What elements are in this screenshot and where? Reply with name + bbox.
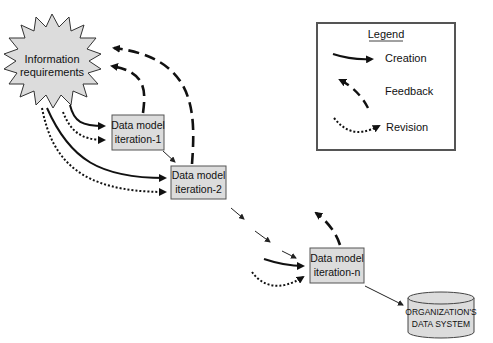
legend-revision-label: Revision [386,121,428,133]
iteration-n-node: Data model iteration-n [310,248,364,283]
creation-arrow-to-itern [264,259,303,266]
iteration-n-line1: Data model [310,252,364,264]
creation-arrow-to-iter1 [70,105,104,126]
iter2-progress-arrow-1 [231,208,244,219]
feedback-arrow-iter1-to-info [112,66,144,113]
iter2-progress-arrow-2 [255,231,270,242]
data-system-line1: ORGANIZATION'S [405,307,477,317]
iteration-2-line2: iteration-2 [175,183,222,195]
iterative-data-modeling-diagram: Information requirements Data model iter… [0,0,493,343]
info-requirements-line2: requirements [20,66,85,78]
iter1-to-iter2-arrow [163,151,175,162]
legend-creation-label: Creation [385,52,427,64]
iteration-1-line2: iteration-1 [115,133,162,145]
iteration-2-line1: Data model [172,169,226,181]
information-requirements-node: Information requirements [4,14,101,108]
feedback-arrow-itern [316,213,340,245]
itern-to-datasystem-arrow [365,286,403,305]
database-cylinder-top [408,292,474,304]
data-system-line2: DATA SYSTEM [412,319,470,329]
info-requirements-line1: Information [24,53,79,65]
legend: Legend Creation Feedback Revision [317,23,455,150]
iter2-progress-arrow-3 [282,251,296,258]
data-system-node: ORGANIZATION'S DATA SYSTEM [405,292,477,338]
iteration-n-line2: iteration-n [314,266,361,278]
iteration-1-node: Data model iteration-1 [111,115,165,150]
iteration-1-line1: Data model [111,119,165,131]
revision-arrow-to-itern [252,272,303,286]
legend-title: Legend [368,28,405,40]
legend-feedback-label: Feedback [385,85,434,97]
iteration-2-node: Data model iteration-2 [171,166,226,199]
